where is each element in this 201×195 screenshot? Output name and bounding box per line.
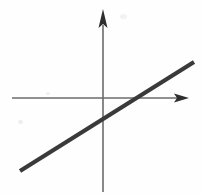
linear-graph-figure [0, 0, 201, 195]
function-line [20, 62, 194, 171]
graph-canvas [0, 0, 201, 195]
